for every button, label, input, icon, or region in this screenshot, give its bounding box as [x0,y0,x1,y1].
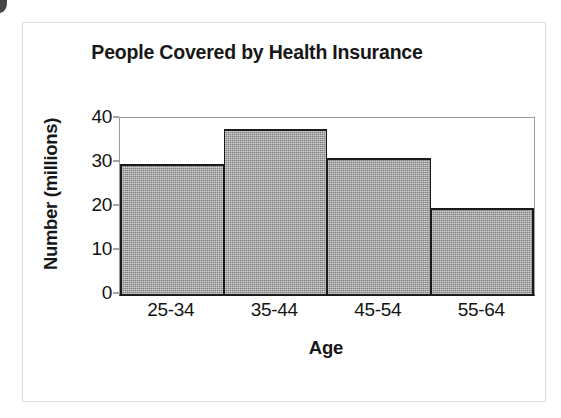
x-tick-label: 55-64 [430,299,534,321]
bar-series [120,118,534,294]
bar [327,158,431,294]
y-tick-label: 10 [64,238,112,260]
bar [120,164,224,294]
y-tick-label: 30 [64,150,112,172]
x-tick-label: 35-44 [223,299,327,321]
x-tick-label: 25-34 [119,299,223,321]
scan-corner-mark [0,0,7,13]
chart-title: People Covered by Health Insurance [22,41,492,64]
x-axis-title: Age [119,337,533,359]
bar-chart-figure: People Covered by Health Insurance Numbe… [22,22,547,403]
y-tick-label: 0 [64,282,112,304]
y-tick-label: 20 [64,194,112,216]
y-axis-tick-labels: 010203040 [64,107,112,295]
y-axis-title: Number (millions) [40,118,62,270]
x-axis-tick-labels: 25-3435-4445-5455-64 [119,299,533,325]
y-axis-title-container: Number (millions) [38,84,64,304]
bar [431,208,535,294]
scanned-page: People Covered by Health Insurance Numbe… [0,0,561,418]
bar [224,129,328,294]
x-tick-label: 45-54 [326,299,430,321]
y-tick-label: 40 [64,106,112,128]
plot-area [119,117,535,296]
